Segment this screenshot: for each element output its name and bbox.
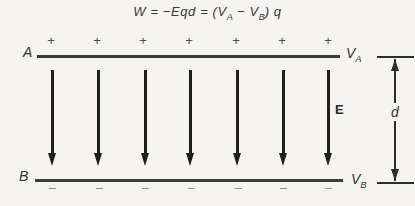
minus-charge: − <box>275 180 291 196</box>
plus-charge: + <box>228 33 244 48</box>
electric-field-label: E <box>335 102 344 117</box>
formula-part: W = −Eqd = (V <box>133 4 226 19</box>
plate-b-label: B <box>19 168 28 184</box>
arrow-head-down-icon <box>48 153 56 166</box>
field-arrow <box>141 70 149 166</box>
field-arrow <box>279 70 287 166</box>
potential-b-subscript: B <box>360 179 366 190</box>
arrow-head-down-icon <box>141 153 149 166</box>
plus-charge: + <box>89 33 105 48</box>
field-arrow <box>233 70 241 166</box>
arrow-shaft <box>189 70 192 153</box>
dimension-tick-top <box>377 56 414 58</box>
arrow-shaft <box>236 70 239 153</box>
field-arrow <box>186 70 194 166</box>
arrow-head-down-icon <box>324 153 332 166</box>
formula-part: ) q <box>265 4 282 19</box>
field-arrow <box>94 70 102 166</box>
work-formula: W = −Eqd = (VA − VB) q <box>100 4 315 22</box>
minus-charge: − <box>183 180 199 196</box>
arrow-shaft <box>97 70 100 153</box>
plus-charge: + <box>181 33 197 48</box>
plate-a-label: A <box>23 44 32 60</box>
field-arrow <box>324 70 332 166</box>
potential-b-base: V <box>351 171 360 187</box>
potential-a-label: VA <box>346 45 362 64</box>
arrow-shaft <box>282 70 285 153</box>
plus-charge: + <box>43 33 59 48</box>
plus-charge: + <box>274 33 290 48</box>
arrow-head-down-icon <box>233 153 241 166</box>
potential-a-subscript: A <box>355 53 361 64</box>
minus-charge: − <box>320 180 336 196</box>
distance-label: d <box>387 103 403 121</box>
arrow-head-down-icon <box>94 153 102 166</box>
plus-charge: + <box>320 33 336 48</box>
field-arrow <box>48 70 56 166</box>
arrow-head-down-icon <box>186 153 194 166</box>
dimension-tick-bottom <box>377 182 414 184</box>
parallel-plate-field-diagram: W = −Eqd = (VA − VB) q A VA + + + + + + … <box>0 0 415 206</box>
arrow-head-up-icon <box>391 59 399 71</box>
arrow-head-down-icon <box>279 153 287 166</box>
arrow-shaft <box>144 70 147 153</box>
minus-charge: − <box>137 180 153 196</box>
potential-b-label: VB <box>351 171 367 190</box>
minus-charge: − <box>44 180 60 196</box>
arrow-shaft <box>51 70 54 153</box>
arrow-shaft <box>327 70 330 153</box>
minus-charge: − <box>91 180 107 196</box>
plate-a-line <box>37 55 340 58</box>
plus-charge: + <box>135 33 151 48</box>
formula-part: − V <box>233 4 259 19</box>
arrow-head-down-icon <box>391 169 399 181</box>
potential-a-base: V <box>346 45 355 61</box>
minus-charge: − <box>230 180 246 196</box>
